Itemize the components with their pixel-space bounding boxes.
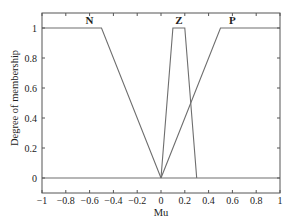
- y-tick-label: 0.2: [25, 143, 38, 154]
- x-tick-label: 0.8: [250, 195, 263, 206]
- y-tick-label: 0.6: [25, 83, 38, 94]
- axes-box: [42, 13, 280, 193]
- x-tick-label: 0.4: [202, 195, 215, 206]
- y-tick-label: 0.8: [25, 53, 38, 64]
- plot-lines: [42, 28, 280, 178]
- membership-function-chart: −1−0.8−0.6−0.4−0.200.20.40.60.81 00.20.4…: [0, 0, 292, 223]
- y-axis-label: Degree of membership: [9, 50, 20, 146]
- series-n-line: [42, 28, 161, 178]
- x-tick-label: −1: [37, 195, 48, 206]
- axis-ticks: [42, 13, 280, 193]
- y-tick-labels: 00.20.40.60.81: [25, 23, 38, 184]
- x-tick-labels: −1−0.8−0.6−0.4−0.200.20.40.60.81: [37, 195, 283, 206]
- x-tick-label: −0.8: [57, 195, 75, 206]
- x-tick-label: 0.6: [226, 195, 239, 206]
- y-tick-label: 0: [32, 173, 37, 184]
- y-tick-label: 0.4: [25, 113, 38, 124]
- x-axis-label: Mu: [154, 207, 169, 218]
- series-z-line: [161, 28, 197, 178]
- chart-canvas: −1−0.8−0.6−0.4−0.200.20.40.60.81 00.20.4…: [0, 0, 292, 223]
- set-label-p: P: [229, 14, 236, 26]
- x-tick-label: 0: [159, 195, 164, 206]
- set-label-z: Z: [175, 14, 182, 26]
- y-tick-label: 1: [32, 23, 37, 34]
- set-label-n: N: [86, 14, 94, 26]
- series-p-line: [161, 28, 280, 178]
- x-tick-label: −0.2: [128, 195, 146, 206]
- x-tick-label: 1: [278, 195, 283, 206]
- x-tick-label: −0.6: [81, 195, 99, 206]
- x-tick-label: −0.4: [104, 195, 122, 206]
- x-tick-label: 0.2: [179, 195, 192, 206]
